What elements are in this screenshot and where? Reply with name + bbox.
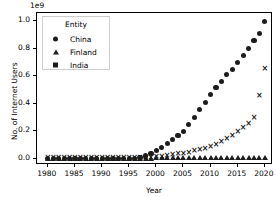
y-tick-label: 0.8 (0, 43, 30, 52)
data-point-china (203, 100, 208, 105)
x-tick-mark (155, 164, 156, 167)
data-point-china (170, 137, 175, 142)
data-point-india: × (255, 92, 263, 100)
x-tick-mark (74, 164, 75, 167)
y-tick-mark (33, 103, 36, 104)
y-tick-mark (33, 48, 36, 49)
data-point-china (181, 129, 186, 134)
legend-label: China (70, 34, 91, 43)
data-point-china (175, 133, 180, 138)
y-tick-label: 0.0 (0, 153, 30, 162)
data-point-china (219, 79, 224, 84)
x-tick-label: 1990 (86, 169, 116, 178)
y-axis-offset-text: 1e9 (30, 1, 44, 10)
y-tick-mark (33, 20, 36, 21)
data-point-india: × (250, 114, 258, 122)
data-point-china (186, 122, 191, 127)
legend-item-finland[interactable]: Finland (43, 45, 109, 58)
legend-label: Finland (70, 47, 97, 56)
data-point-china (246, 46, 251, 51)
x-tick-mark (210, 164, 211, 167)
square-marker-icon (53, 62, 58, 67)
chart-legend: Entity ChinaFinlandIndia (42, 16, 110, 70)
x-tick-label: 2000 (140, 169, 170, 178)
x-tick-label: 2020 (249, 169, 276, 178)
y-tick-mark (33, 158, 36, 159)
y-tick-label: 0.6 (0, 70, 30, 79)
x-tick-mark (237, 164, 238, 167)
data-point-china (230, 67, 235, 72)
x-tick-label: 1995 (113, 169, 143, 178)
x-tick-label: 2005 (167, 169, 197, 178)
y-tick-label: 0.2 (0, 125, 30, 134)
data-point-china (213, 85, 218, 90)
x-tick-label: 2015 (222, 169, 252, 178)
legend-item-india[interactable]: India (43, 58, 109, 71)
x-tick-label: 1980 (32, 169, 62, 178)
data-point-china (224, 72, 229, 77)
data-point-china (197, 107, 202, 112)
data-point-china (159, 145, 164, 150)
data-point-finland (262, 155, 268, 160)
x-tick-label: 2010 (195, 169, 225, 178)
x-tick-label: 1985 (59, 169, 89, 178)
data-point-china (192, 115, 197, 120)
data-point-china (208, 92, 213, 97)
x-tick-mark (101, 164, 102, 167)
triangle-marker-icon (53, 49, 59, 54)
circle-marker-icon (53, 36, 58, 41)
y-tick-mark (33, 75, 36, 76)
x-tick-mark (182, 164, 183, 167)
data-point-china (251, 38, 256, 43)
chart-figure: 1e9 No. of Internet Users ××××××××××××××… (0, 0, 276, 197)
y-tick-label: 1.0 (0, 15, 30, 24)
data-point-china (257, 31, 262, 36)
x-tick-mark (47, 164, 48, 167)
x-axis-label: Year (36, 186, 272, 195)
y-tick-label: 0.4 (0, 98, 30, 107)
y-tick-mark (33, 130, 36, 131)
data-point-india: × (261, 65, 269, 73)
data-point-china (165, 141, 170, 146)
data-point-china (262, 19, 267, 24)
x-tick-mark (264, 164, 265, 167)
legend-label: India (70, 60, 88, 69)
legend-item-china[interactable]: China (43, 32, 109, 45)
data-point-china (235, 60, 240, 65)
data-point-china (241, 53, 246, 58)
legend-title: Entity (43, 20, 109, 29)
x-tick-mark (128, 164, 129, 167)
